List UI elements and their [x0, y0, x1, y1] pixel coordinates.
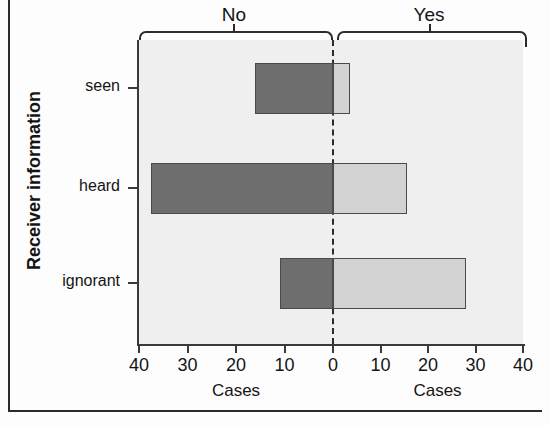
- brace-label-yes: Yes: [379, 4, 479, 26]
- x-axis-tick-left-10: [284, 344, 286, 353]
- x-axis-label-left-10: 10: [263, 355, 307, 376]
- x-axis-tick-left-30: [187, 344, 189, 353]
- x-axis-title-right: Cases: [378, 381, 498, 401]
- x-axis-tick-right-10: [380, 344, 382, 353]
- x-axis-tick-left-40: [138, 344, 140, 353]
- x-axis-label-left-20: 20: [214, 355, 258, 376]
- x-axis-tick-left-0: [332, 344, 334, 353]
- brace-label-no: No: [184, 4, 284, 26]
- y-axis-label-seen: seen: [0, 77, 120, 95]
- y-axis-line: [137, 40, 139, 346]
- x-axis-label-right-40: 40: [501, 355, 545, 376]
- x-axis-label-right-20: 20: [406, 355, 450, 376]
- x-axis-tick-left-20: [235, 344, 237, 353]
- figure-frame-left-rule: [8, 0, 10, 412]
- x-axis-label-left-0: 0: [311, 355, 355, 376]
- y-axis-label-heard: heard: [0, 177, 120, 195]
- bar-yes-heard: [333, 163, 407, 214]
- x-axis-label-right-10: 10: [359, 355, 403, 376]
- x-axis-title-left: Cases: [176, 381, 296, 401]
- figure-bidirectional-bar-chart: No Yes Receiver information seenheardign…: [0, 0, 550, 426]
- bar-yes-seen: [333, 63, 350, 114]
- bar-no-heard: [151, 163, 333, 214]
- x-axis-label-right-30: 30: [454, 355, 498, 376]
- x-axis-label-left-30: 30: [166, 355, 210, 376]
- x-axis-tick-right-30: [475, 344, 477, 353]
- x-axis-line: [137, 344, 525, 346]
- figure-frame-bottom-rule: [8, 410, 542, 412]
- bar-yes-ignorant: [333, 258, 466, 309]
- y-axis-tick-seen: [128, 87, 139, 89]
- x-axis-tick-right-20: [427, 344, 429, 353]
- bar-no-ignorant: [280, 258, 333, 309]
- y-axis-label-ignorant: ignorant: [0, 272, 120, 290]
- y-axis-tick-ignorant: [128, 282, 139, 284]
- bar-no-seen: [255, 63, 333, 114]
- x-axis-label-left-40: 40: [117, 355, 161, 376]
- y-axis-tick-heard: [128, 187, 139, 189]
- x-axis-tick-right-40: [522, 344, 524, 353]
